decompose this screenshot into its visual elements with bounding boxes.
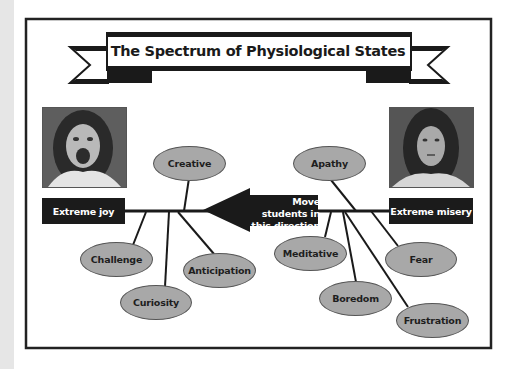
extreme-misery-label: Extreme misery	[389, 198, 473, 224]
node-curiosity: Curiosity	[120, 285, 192, 320]
extreme-joy-label: Extreme joy	[42, 198, 125, 224]
arrow-label-line1: Move students in	[244, 196, 320, 220]
arrow-label: Move students in this direction	[244, 196, 320, 232]
node-frustration: Frustration	[396, 303, 469, 338]
node-fear: Fear	[385, 242, 457, 277]
node-boredom: Boredom	[319, 281, 392, 316]
node-meditative: Meditative	[274, 236, 347, 271]
node-apathy: Apathy	[293, 146, 366, 181]
node-challenge: Challenge	[80, 242, 153, 277]
excited-face-photo	[42, 107, 127, 188]
node-anticipation: Anticipation	[183, 253, 256, 288]
node-creative: Creative	[153, 146, 226, 181]
arrow-label-line2: this direction	[244, 220, 320, 232]
sad-face-photo	[389, 107, 474, 188]
page-title: The Spectrum of Physiological States	[108, 38, 408, 64]
